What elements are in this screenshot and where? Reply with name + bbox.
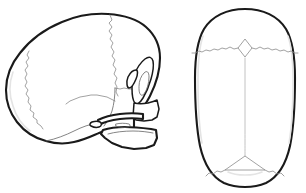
superior-view (192, 9, 298, 187)
neonatal-skull-figure: Neonatal skull — lateral and superior vi… (0, 0, 306, 193)
tympanic-ring (90, 121, 101, 127)
skull-illustration: Neonatal skull — lateral and superior vi… (0, 0, 306, 193)
